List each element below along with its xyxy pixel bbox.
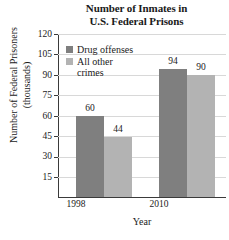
y-tick-label-120: 120 bbox=[22, 30, 52, 40]
legend-label-drug-offenses: Drug offenses bbox=[77, 44, 133, 55]
x-axis-label: Year bbox=[58, 216, 226, 227]
bar-value-2010-all-other-crimes: 90 bbox=[188, 63, 214, 73]
y-tick-label-45: 45 bbox=[22, 132, 52, 142]
chart-title-line-1: Number of Inmates in bbox=[44, 2, 229, 15]
chart-title-line-2: U.S. Federal Prisons bbox=[44, 15, 229, 28]
chart-legend: Drug offenses All other crimes bbox=[66, 44, 133, 79]
y-tick-label-90: 90 bbox=[22, 71, 52, 81]
bar-1998-all-other-crimes bbox=[104, 137, 132, 197]
y-tick-label-105: 105 bbox=[22, 50, 52, 60]
x-tick-label-1998: 1998 bbox=[56, 200, 96, 210]
bar-value-2010-drug-offenses: 94 bbox=[160, 57, 186, 67]
bar-value-1998-drug-offenses: 60 bbox=[77, 104, 103, 114]
y-axis-tick-labels: 120 105 90 75 60 45 30 15 bbox=[18, 0, 52, 240]
y-tick-label-30: 30 bbox=[22, 152, 52, 162]
bar-2010-drug-offenses bbox=[159, 69, 187, 197]
bar-1998-drug-offenses bbox=[76, 116, 104, 197]
legend-label-all-other-crimes: All other crimes bbox=[77, 56, 113, 78]
bar-value-1998-all-other-crimes: 44 bbox=[105, 125, 131, 135]
y-tick-label-15: 15 bbox=[22, 173, 52, 183]
chart-figure: Number of Inmates in U.S. Federal Prison… bbox=[0, 0, 229, 240]
y-tick-label-75: 75 bbox=[22, 91, 52, 101]
bar-2010-all-other-crimes bbox=[187, 75, 215, 197]
chart-title: Number of Inmates in U.S. Federal Prison… bbox=[44, 2, 229, 27]
x-tick-label-2010: 2010 bbox=[139, 200, 179, 210]
legend-swatch-drug-offenses bbox=[66, 46, 73, 53]
gridline-120 bbox=[58, 34, 226, 35]
legend-swatch-all-other-crimes bbox=[66, 58, 73, 65]
x-axis-line bbox=[58, 197, 226, 198]
legend-item-drug-offenses: Drug offenses bbox=[66, 44, 133, 55]
y-tick-label-60: 60 bbox=[22, 112, 52, 122]
legend-item-all-other-crimes: All other crimes bbox=[66, 56, 133, 78]
